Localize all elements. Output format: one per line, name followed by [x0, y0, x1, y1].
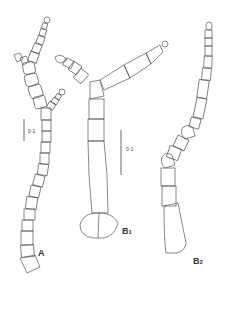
scale-label-a: 0·1 — [28, 128, 35, 134]
figure: 0·1 0·1 A B1 B2 — [0, 0, 226, 311]
filament-b2 — [161, 22, 212, 253]
panel-label-b2: B2 — [193, 256, 203, 266]
panel-label-b1: B1 — [122, 226, 132, 236]
filament-b1 — [55, 41, 168, 238]
panel-label-a: A — [38, 248, 45, 258]
scale-label-b1: 0·1 — [126, 146, 133, 152]
